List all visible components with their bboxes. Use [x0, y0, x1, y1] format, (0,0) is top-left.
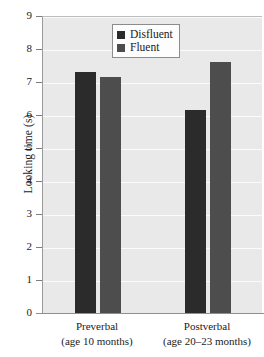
- y-axis-tick-label: 3: [0, 208, 32, 219]
- y-axis-tick-label: 2: [0, 241, 32, 252]
- legend-swatch-fluent: [117, 44, 125, 52]
- plot-area: [42, 16, 262, 313]
- legend-label-disfluent: Disfluent: [130, 28, 173, 41]
- bar-fluent-preverbal: [100, 77, 121, 313]
- y-axis-tick-label: 1: [0, 274, 32, 285]
- y-axis-tick-label: 4: [0, 175, 32, 186]
- legend-label-fluent: Fluent: [130, 41, 159, 54]
- chart-legend: Disfluent Fluent: [112, 24, 180, 58]
- y-axis-tick-label: 7: [0, 76, 32, 87]
- y-axis-tick-label: 6: [0, 109, 32, 120]
- x-category-name: Postverbal: [137, 319, 264, 334]
- legend-swatch-disfluent: [117, 31, 125, 39]
- bar-fluent-postverbal: [210, 62, 231, 313]
- y-axis-tick-label: 0: [0, 307, 32, 318]
- y-axis-tick-label: 5: [0, 142, 32, 153]
- y-axis-tick-label: 9: [0, 10, 32, 21]
- x-category-sublabel: (age 20–23 months): [137, 334, 264, 349]
- bar-chart: Looking time (s) 0123456789 Disfluent Fl…: [0, 0, 264, 357]
- x-axis-line: [36, 313, 264, 314]
- y-axis-tick-label: 8: [0, 43, 32, 54]
- x-category-postverbal: Postverbal (age 20–23 months): [137, 319, 264, 349]
- bar-disfluent-preverbal: [75, 72, 96, 313]
- legend-item-fluent: Fluent: [117, 41, 173, 54]
- bar-disfluent-postverbal: [185, 110, 206, 313]
- gridline: [43, 17, 262, 18]
- legend-item-disfluent: Disfluent: [117, 28, 173, 41]
- plot-inner: [43, 17, 262, 313]
